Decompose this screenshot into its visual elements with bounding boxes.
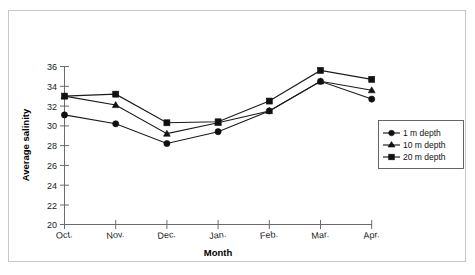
x-tick-label-mar: Mar. — [311, 229, 329, 241]
square-marker-icon — [113, 91, 119, 97]
circle-marker-icon — [215, 129, 221, 135]
data-series-layer — [61, 67, 375, 146]
legend-label-1m: 1 m depth — [403, 128, 441, 138]
circle-marker-icon — [164, 140, 170, 146]
square-marker-icon — [369, 76, 375, 82]
series-line — [65, 70, 372, 122]
y-tick-label-24: 24 — [47, 181, 57, 191]
x-tick-label-apr: Apr. — [363, 229, 380, 241]
x-tick-label-nov: Nov. — [106, 229, 125, 241]
x-tick-label-feb: Feb. — [260, 229, 279, 241]
square-marker-icon — [164, 120, 170, 126]
x-tick-label-jan: Jan. — [209, 229, 227, 241]
series-1-m-depth — [61, 78, 374, 146]
circle-marker-icon — [369, 96, 375, 102]
y-tick-label-28: 28 — [47, 141, 57, 151]
legend-label-10m: 10 m depth — [403, 140, 446, 150]
square-marker-icon — [318, 67, 324, 73]
y-tick-label-26: 26 — [47, 161, 57, 171]
y-tick-label-36: 36 — [47, 62, 57, 72]
x-axis-title: Month — [204, 247, 233, 258]
circle-marker-icon — [61, 112, 67, 118]
series-10-m-depth — [61, 78, 375, 136]
line-chart-plot: 36 34 32 30 28 26 24 22 20 Oct. Nov. Dec… — [0, 0, 475, 275]
y-tick-label-30: 30 — [47, 121, 57, 131]
square-marker-icon — [215, 119, 221, 125]
x-axis-tick-labels: Oct. Nov. Dec. Jan. Feb. Mar. Apr. — [55, 229, 379, 241]
series-20-m-depth — [62, 67, 375, 125]
y-axis-title: Average salinity — [20, 108, 31, 181]
circle-marker-icon — [113, 121, 119, 127]
circle-marker-icon — [389, 130, 395, 136]
y-tick-label-34: 34 — [47, 82, 57, 92]
chart-figure: 36 34 32 30 28 26 24 22 20 Oct. Nov. Dec… — [0, 0, 475, 275]
x-tick-label-oct: Oct. — [55, 229, 72, 241]
square-marker-icon — [62, 93, 68, 99]
y-tick-label-32: 32 — [47, 102, 57, 112]
legend-label-20m: 20 m depth — [403, 152, 446, 162]
y-tick-label-22: 22 — [47, 201, 57, 211]
y-axis-tick-labels: 36 34 32 30 28 26 24 22 20 — [47, 62, 57, 230]
chart-legend: 1 m depth 10 m depth 20 m depth — [379, 121, 464, 169]
series-line — [65, 81, 372, 133]
x-tick-label-dec: Dec. — [157, 229, 176, 241]
square-marker-icon — [266, 98, 272, 104]
square-marker-icon — [389, 154, 395, 160]
y-tick-label-20: 20 — [47, 220, 57, 230]
